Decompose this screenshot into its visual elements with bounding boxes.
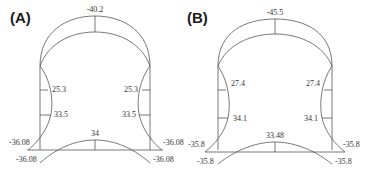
left-corner-lower-value: -36.08 xyxy=(16,155,37,164)
bending-moment-diagram: -40.2 25.3 25.3 33.5 33.5 34 -36.08 -36.… xyxy=(0,0,184,174)
right-upper-value: 27.4 xyxy=(306,79,320,88)
right-mid-value: 34.1 xyxy=(304,114,318,123)
left-mid-value: 34.1 xyxy=(233,114,247,123)
crown-value: -45.5 xyxy=(267,8,284,17)
right-corner-upper-value: -36.08 xyxy=(163,138,184,147)
right-corner-lower-value: -36.08 xyxy=(153,155,174,164)
invert-value: 33.48 xyxy=(266,131,284,140)
right-wall-moment-curve xyxy=(321,66,345,152)
left-mid-value: 33.5 xyxy=(54,110,68,119)
left-corner-lower-value: -35.8 xyxy=(197,157,214,166)
left-wall-moment-curve xyxy=(205,66,229,152)
crown-moment-curve xyxy=(218,34,332,66)
right-corner-lower-value: -35.8 xyxy=(335,157,352,166)
left-corner-upper-value: -35.8 xyxy=(188,140,205,149)
crown-value: -40.2 xyxy=(87,5,104,14)
invert-value: 34 xyxy=(91,129,99,138)
crown-moment-curve xyxy=(40,32,150,66)
panel-a: (A) -40.2 25.3 25.3 33.5 33.5 34 -36.08 … xyxy=(0,0,184,174)
right-corner-upper-value: -35.8 xyxy=(343,140,360,149)
right-upper-value: 25.3 xyxy=(124,85,138,94)
left-upper-value: 27.4 xyxy=(231,79,245,88)
right-mid-value: 33.5 xyxy=(122,110,136,119)
left-upper-value: 25.3 xyxy=(52,85,66,94)
panel-b: (B) -45.5 27.4 27.4 34.1 34.1 33.48 -35.… xyxy=(183,0,367,174)
left-corner-upper-value: -36.08 xyxy=(9,138,30,147)
bending-moment-diagram: -45.5 27.4 27.4 34.1 34.1 33.48 -35.8 -3… xyxy=(183,0,367,174)
